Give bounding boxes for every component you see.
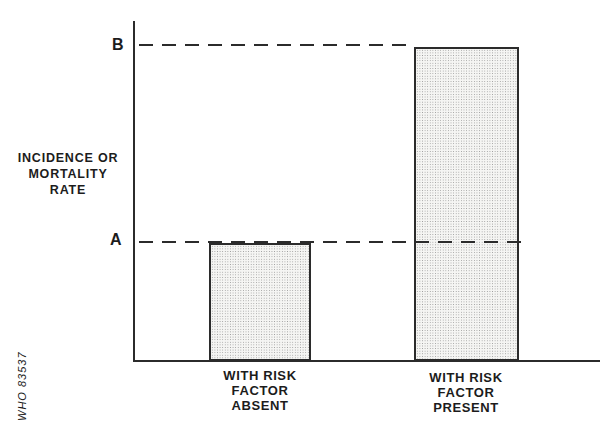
reference-label-b: B (106, 37, 130, 53)
bar-label-absent-line-3: ABSENT (190, 398, 330, 413)
bar-label-present-line-2: FACTOR (396, 385, 536, 400)
reference-dashed-line-b (139, 44, 407, 46)
bar-label-risk-factor-present: WITH RISK FACTOR PRESENT (396, 370, 536, 415)
bar-label-absent-line-2: FACTOR (190, 383, 330, 398)
y-axis-title-line-1: INCIDENCE OR (6, 150, 130, 166)
bar-label-risk-factor-absent: WITH RISK FACTOR ABSENT (190, 368, 330, 413)
y-axis-line (133, 21, 135, 362)
bar-risk-factor-absent (209, 243, 311, 361)
y-axis-title-line-3: RATE (6, 182, 130, 198)
reference-label-a: A (104, 232, 128, 248)
reference-dashed-line-a (139, 241, 528, 243)
bar-label-absent-line-1: WITH RISK (190, 368, 330, 383)
bar-label-present-line-1: WITH RISK (396, 370, 536, 385)
x-axis-line (133, 360, 600, 362)
bar-label-present-line-3: PRESENT (396, 400, 536, 415)
bar-risk-factor-present (414, 47, 519, 361)
who-credit-text: WHO 83537 (16, 351, 28, 421)
y-axis-title: INCIDENCE OR MORTALITY RATE (6, 150, 130, 198)
y-axis-title-line-2: MORTALITY (6, 166, 130, 182)
who-bar-chart-figure: B A INCIDENCE OR MORTALITY RATE WITH RIS… (0, 0, 609, 433)
